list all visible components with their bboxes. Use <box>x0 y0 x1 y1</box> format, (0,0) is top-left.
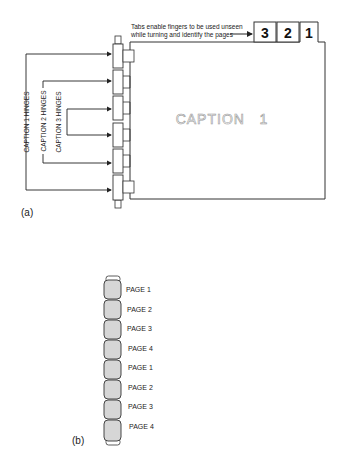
callout-line-2: while turning and identify the pages <box>130 31 234 39</box>
tab-2-label: 2 <box>284 25 292 41</box>
figure-a-label: (a) <box>21 207 33 218</box>
tab-1-label: 1 <box>305 25 313 41</box>
figure-b-label: (b) <box>72 435 84 446</box>
caption-1-hinges-label: CAPTION 1 HINGES <box>23 91 30 153</box>
hinge-knuckles <box>104 280 121 441</box>
page-label: PAGE 3 <box>128 403 153 410</box>
page-label: PAGE 3 <box>127 325 152 332</box>
hinge-spine <box>113 36 134 208</box>
page-label: PAGE 4 <box>128 345 153 352</box>
page-label: PAGE 4 <box>129 423 154 430</box>
diagram-canvas: 3 2 1 Tabs enable fingers to be used uns… <box>0 0 340 471</box>
page-caption: CAPTION 1 <box>176 111 269 127</box>
page-label: PAGE 2 <box>128 384 153 391</box>
figure-a: 3 2 1 Tabs enable fingers to be used uns… <box>21 22 325 218</box>
figure-b: PAGE 1 PAGE 2 PAGE 3 PAGE 4 PAGE 1 PAGE … <box>72 276 154 446</box>
caption-3-hinges-label: CAPTION 3 HINGES <box>55 91 62 153</box>
caption-2-hinges-label: CAPTION 2 HINGES <box>40 90 47 152</box>
callout-line-1: Tabs enable fingers to be used unseen <box>131 23 243 31</box>
page-label: PAGE 1 <box>126 286 151 293</box>
page-label: PAGE 1 <box>128 364 153 371</box>
page-label: PAGE 2 <box>127 306 152 313</box>
tab-3-label: 3 <box>261 25 269 41</box>
